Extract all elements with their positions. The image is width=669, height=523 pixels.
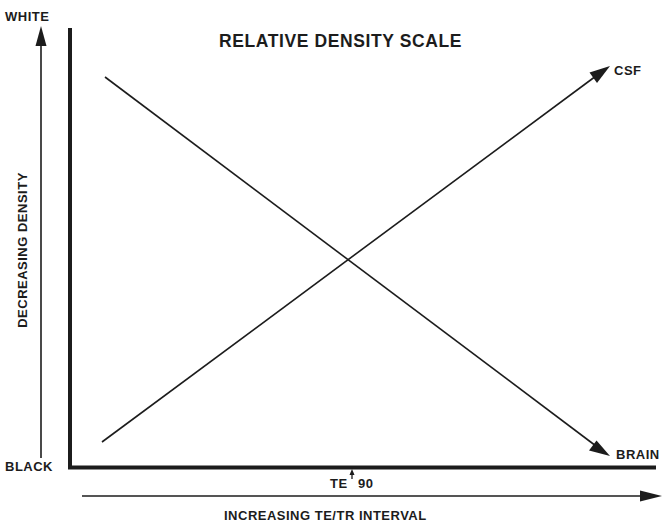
- diagram-title: RELATIVE DENSITY SCALE: [219, 33, 462, 51]
- y-axis-label: DECREASING DENSITY: [16, 172, 29, 328]
- te-90-marker: [350, 469, 355, 479]
- density-scale-diagram: [0, 0, 669, 523]
- arrow-up-icon: [350, 469, 355, 475]
- te-marker-value: 90: [358, 477, 373, 490]
- arrowhead-icon: [590, 66, 611, 83]
- series-label-csf: CSF: [614, 64, 642, 77]
- te-marker-label: TE: [330, 477, 348, 490]
- y-bottom-label: BLACK: [5, 460, 53, 473]
- y-direction-arrow: [36, 26, 47, 458]
- arrow-right-icon: [640, 491, 662, 502]
- x-axis-label: INCREASING TE/TR INTERVAL: [224, 509, 427, 522]
- x-direction-arrow: [82, 491, 662, 502]
- series-brain-line: [105, 77, 610, 456]
- series-csf-line: [102, 66, 610, 442]
- series-label-brain: BRAIN: [616, 448, 660, 461]
- arrow-up-icon: [36, 26, 47, 46]
- y-top-label: WHITE: [5, 10, 49, 23]
